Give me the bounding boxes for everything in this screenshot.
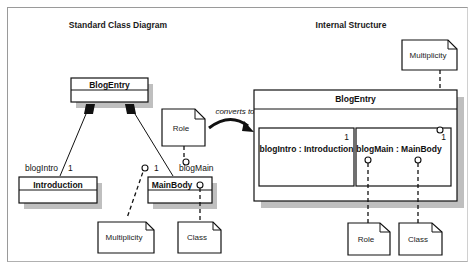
note-text: Role (173, 124, 190, 133)
note-text: Multiplicity (106, 233, 143, 242)
converts-arrow (209, 119, 248, 128)
note-text: Class (187, 233, 207, 242)
right-panel-title: Internal Structure (316, 20, 387, 30)
anchor-circle-icon (365, 157, 371, 163)
class-name: BlogEntry (89, 80, 130, 90)
diagram-canvas: Standard Class Diagram BlogEntry blogInt… (0, 0, 476, 270)
association-line-intro (60, 114, 86, 176)
class-introduction[interactable]: Introduction (19, 177, 102, 209)
part-blogmain[interactable]: 1 blogMain : MainBody (356, 128, 451, 186)
note-multiplicity-right: Multiplicity (402, 40, 457, 70)
note-text: Role (358, 235, 375, 244)
arrowhead-icon (242, 121, 254, 132)
multiplicity-label-main: 1 (154, 163, 159, 173)
part-multiplicity: 1 (441, 132, 446, 142)
anchor-circle-icon (183, 159, 189, 165)
transition-label: converts to (215, 107, 255, 116)
part-label: blogIntro : Introduction (260, 144, 354, 154)
part-multiplicity: 1 (344, 132, 349, 142)
anchor-circle-icon (415, 157, 421, 163)
class-name: Introduction (33, 180, 83, 190)
note-multiplicity-left: Multiplicity (98, 222, 154, 253)
note-role-left: Role (162, 109, 205, 146)
anchor-circle-icon (437, 127, 443, 133)
note-text: Multiplicity (410, 51, 447, 60)
note-class-left: Class (178, 222, 221, 253)
multiplicity-label-intro: 1 (68, 163, 73, 173)
note-text: Class (408, 235, 428, 244)
anchor-circle-icon (197, 182, 203, 188)
class-mainbody[interactable]: MainBody (148, 177, 217, 209)
note-anchor-line (127, 166, 145, 218)
composite-name: BlogEntry (335, 94, 376, 104)
role-label-blogintro: blogIntro (25, 163, 58, 173)
anchor-circle-icon (142, 165, 148, 171)
note-role-right: Role (348, 223, 390, 255)
note-class-right: Class (399, 223, 442, 255)
part-blogintro[interactable]: 1 blogIntro : Introduction (259, 128, 354, 186)
part-label: blogMain : MainBody (356, 144, 442, 154)
left-panel-title: Standard Class Diagram (69, 20, 168, 30)
class-blogentry-left[interactable]: BlogEntry (71, 78, 153, 108)
class-name: MainBody (152, 180, 193, 190)
